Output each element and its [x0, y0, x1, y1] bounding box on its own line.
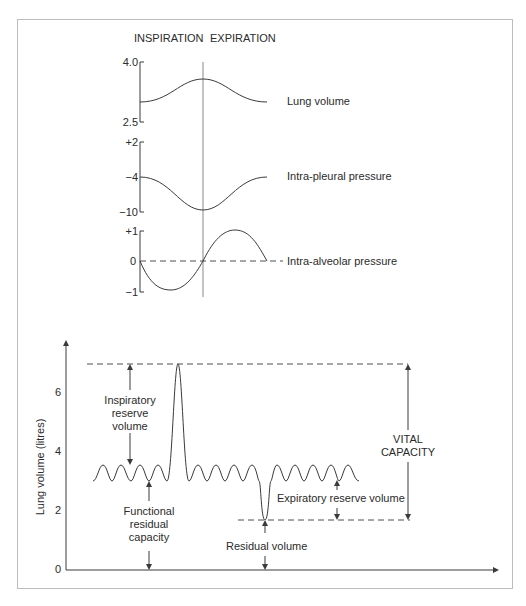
y-tick-4: 4 [55, 445, 61, 458]
inspiration-label: INSPIRATION [134, 32, 203, 45]
intrapleural-tick-minus10: −10 [119, 206, 138, 219]
intraalveolar-tick-plus1: +1 [125, 225, 138, 238]
irv-label-line3: volume [112, 420, 147, 433]
intrapleural-label: Intra-pleural pressure [287, 170, 392, 183]
intrapleural-tick-minus4: −4 [125, 171, 138, 184]
expiration-label: EXPIRATION [210, 32, 276, 45]
intraalveolar-curve [140, 230, 267, 290]
vc-label-line2: CAPACITY [381, 446, 435, 459]
vc-label-line1: VITAL [393, 433, 423, 446]
erv-label: Expiratory reserve volume [277, 492, 405, 505]
lung-volume-tick-min: 2.5 [123, 116, 138, 129]
lung-volume-axis [140, 62, 144, 122]
lung-volume-tick-max: 4.0 [123, 56, 138, 69]
intraalveolar-tick-minus1: −1 [125, 286, 138, 299]
lung-volume-label: Lung volume [287, 95, 350, 108]
y-tick-0: 0 [55, 563, 61, 576]
intraalveolar-tick-zero: 0 [130, 255, 136, 268]
irv-label-line1: Inspiratory [104, 394, 155, 407]
y-axis-label: Lung volume (litres) [34, 419, 47, 516]
rv-label: Residual volume [226, 540, 307, 553]
frc-label-line2: residual [130, 518, 169, 531]
irv-label-line2: reserve [112, 407, 149, 420]
intrapleural-tick-plus2: +2 [125, 136, 138, 149]
frc-label-line1: Functional [124, 505, 175, 518]
lung-volume-curve [140, 79, 267, 102]
frc-label-line3: capacity [129, 531, 169, 544]
physiology-diagram [0, 0, 526, 606]
y-tick-2: 2 [55, 504, 61, 517]
intraalveolar-label: Intra-alveolar pressure [287, 255, 397, 268]
y-tick-6: 6 [55, 386, 61, 399]
intrapleural-curve [140, 177, 267, 210]
